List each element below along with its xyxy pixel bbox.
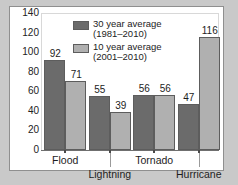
x-axis-label-flood: Flood <box>33 155 97 166</box>
legend-swatch-10-year <box>73 44 89 53</box>
figure-root: 020406080100120140 92715539565647116 Flo… <box>0 0 238 185</box>
y-axis: 020406080100120140 <box>10 7 39 157</box>
x-axis-leader-line <box>199 153 200 167</box>
bar-tornado-series-0 <box>133 95 154 150</box>
bar-tornado-series-1 <box>154 95 175 150</box>
x-axis: FloodLightningTornadoHurricane <box>41 150 219 184</box>
bar-value-label: 116 <box>196 26 224 36</box>
legend-label-30-year: 30 year average (1981–2010) <box>93 19 162 39</box>
x-axis-tick-mark <box>153 150 155 153</box>
bar-value-label: 92 <box>41 49 69 59</box>
x-axis-tick-mark <box>64 150 66 153</box>
y-axis-tick-label: 20 <box>10 125 39 135</box>
bar-flood-series-1 <box>65 81 86 150</box>
x-axis-label-lightning: Lightning <box>78 169 142 180</box>
y-axis-tick-label: 60 <box>10 86 39 96</box>
y-axis-tick-label: 80 <box>10 67 39 77</box>
chart-panel: 020406080100120140 92715539565647116 Flo… <box>9 6 224 171</box>
y-axis-tick-label: 40 <box>10 106 39 116</box>
legend-item-10-year: 10 year average (2001–2010) <box>73 42 183 62</box>
y-axis-tick-label: 120 <box>10 28 39 38</box>
bar-value-label: 39 <box>107 101 135 111</box>
legend-item-30-year: 30 year average (1981–2010) <box>73 19 183 39</box>
x-axis-label-tornado: Tornado <box>122 155 186 166</box>
bar-hurricane-series-0 <box>178 104 199 150</box>
bar-value-label: 71 <box>62 70 90 80</box>
y-axis-tick-label: 100 <box>10 47 39 57</box>
legend-label-10-year: 10 year average (2001–2010) <box>93 42 162 62</box>
bar-hurricane-series-1 <box>199 37 220 151</box>
x-axis-label-hurricane: Hurricane <box>167 169 231 180</box>
bar-lightning-series-1 <box>110 112 131 150</box>
y-axis-tick-label: 0 <box>10 145 39 155</box>
x-axis-leader-line <box>110 153 111 167</box>
legend-swatch-30-year <box>73 21 89 30</box>
bar-value-label: 55 <box>86 85 114 95</box>
y-axis-tick-label: 140 <box>10 8 39 18</box>
chart-legend: 30 year average (1981–2010) 10 year aver… <box>73 19 183 65</box>
bar-group: 47116 <box>178 13 220 150</box>
